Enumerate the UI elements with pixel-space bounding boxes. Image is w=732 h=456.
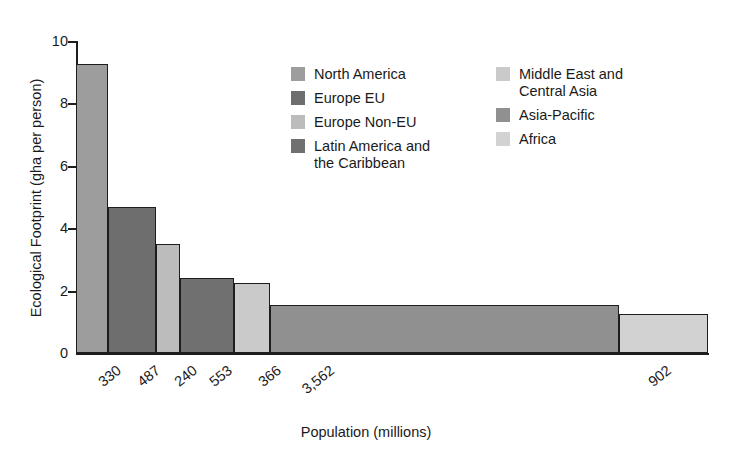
legend: North AmericaEurope EUEurope Non-EULatin… bbox=[291, 66, 711, 186]
x-tick-label-3562: 3,562 bbox=[299, 362, 337, 397]
y-tick-label-6: 6 bbox=[40, 159, 68, 174]
y-tick-label-10: 10 bbox=[40, 34, 68, 49]
y-tick-mark-10 bbox=[68, 41, 76, 43]
legend-item-label: North America bbox=[314, 66, 406, 83]
legend-column-right: Middle East andCentral AsiaAsia-PacificA… bbox=[496, 66, 701, 155]
y-tick-mark-4 bbox=[68, 228, 76, 230]
legend-swatch-icon bbox=[496, 108, 510, 122]
legend-item[interactable]: North America bbox=[291, 66, 466, 83]
bar-north-america bbox=[76, 64, 108, 353]
legend-item-label: Europe EU bbox=[314, 90, 385, 107]
legend-item[interactable]: Asia-Pacific bbox=[496, 107, 701, 124]
legend-item-label: Europe Non-EU bbox=[314, 114, 416, 131]
bar-europe-eu bbox=[108, 207, 156, 353]
legend-item[interactable]: Africa bbox=[496, 131, 701, 148]
bar-asia-pacific bbox=[270, 305, 620, 353]
x-tick-label-240: 240 bbox=[171, 362, 200, 390]
x-tick-label-487: 487 bbox=[135, 362, 164, 390]
y-tick-label-8: 8 bbox=[40, 96, 68, 111]
x-tick-label-366: 366 bbox=[255, 362, 284, 390]
legend-swatch-icon bbox=[291, 115, 305, 129]
y-tick-label-4: 4 bbox=[40, 221, 68, 236]
legend-item[interactable]: Latin America andthe Caribbean bbox=[291, 138, 466, 172]
legend-swatch-icon bbox=[291, 91, 305, 105]
x-axis-line bbox=[76, 353, 709, 355]
ecological-footprint-chart: Ecological Footprint (gha per person) 10… bbox=[0, 0, 732, 456]
legend-column-left: North AmericaEurope EUEurope Non-EULatin… bbox=[291, 66, 466, 179]
y-axis-title: Ecological Footprint (gha per person) bbox=[28, 48, 44, 348]
y-tick-label-2: 2 bbox=[40, 284, 68, 299]
legend-item[interactable]: Middle East andCentral Asia bbox=[496, 66, 701, 100]
legend-item[interactable]: Europe EU bbox=[291, 90, 466, 107]
bar-europe-non-eu bbox=[156, 244, 180, 353]
y-tick-mark-6 bbox=[68, 166, 76, 168]
legend-swatch-icon bbox=[291, 67, 305, 81]
legend-swatch-icon bbox=[291, 139, 305, 153]
x-tick-label-330: 330 bbox=[95, 362, 124, 390]
y-tick-mark-2 bbox=[68, 291, 76, 293]
y-tick-mark-8 bbox=[68, 103, 76, 105]
legend-item-label: Latin America andthe Caribbean bbox=[314, 138, 430, 172]
y-tick-label-0: 0 bbox=[40, 346, 68, 361]
x-tick-label-553: 553 bbox=[206, 362, 235, 390]
bar-latin-america-caribbean bbox=[180, 278, 234, 353]
legend-swatch-icon bbox=[496, 67, 510, 81]
legend-item[interactable]: Europe Non-EU bbox=[291, 114, 466, 131]
legend-swatch-icon bbox=[496, 132, 510, 146]
legend-item-label: Asia-Pacific bbox=[519, 107, 595, 124]
bar-middle-east-central-asia bbox=[234, 283, 270, 353]
legend-item-label: Africa bbox=[519, 131, 556, 148]
legend-item-label: Middle East andCentral Asia bbox=[519, 66, 623, 100]
x-tick-label-902: 902 bbox=[646, 362, 675, 390]
bar-africa bbox=[619, 314, 708, 353]
x-axis-title: Population (millions) bbox=[0, 424, 732, 440]
